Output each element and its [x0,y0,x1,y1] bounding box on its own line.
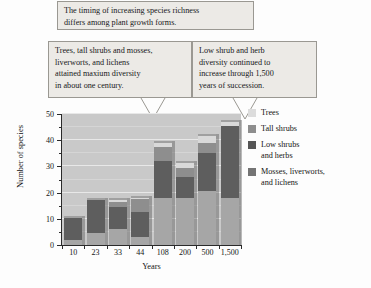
callout-right-line-3: increase through 1,500 [199,68,311,80]
bar-slot [62,114,84,245]
y-tick [57,219,61,220]
bar [154,143,172,245]
x-tick-label: 44 [129,248,151,257]
callout-top-line-2: differs among plant growth forms. [64,17,248,29]
bar-segment [176,168,194,177]
legend-swatch-icon [248,125,256,133]
legend-label-line: and herbs [261,151,299,162]
bar-chart: 01020304050 Number of species 1023334410… [0,104,371,288]
y-tick [57,140,61,141]
x-tick [219,245,220,249]
figure-root: The timing of increasing species richnes… [0,0,371,288]
y-axis-title: Number of species [16,109,25,205]
x-tick-label: 108 [152,248,174,257]
bar-segment [87,233,105,245]
x-tick [107,245,108,249]
bar [198,136,216,245]
bar-slot [84,114,106,245]
legend: TreesTall shrubsLow shrubsand herbsMosse… [248,108,368,194]
bar-slot [107,114,129,245]
legend-swatch-icon [248,168,256,176]
bar-segment [154,147,172,161]
y-tick-label: 20 [46,188,54,197]
legend-label: Mosses, liverworts,and lichens [261,167,325,188]
legend-label-line: Tall shrubs [261,124,297,135]
x-tick-label: 23 [84,248,106,257]
legend-label-line: Low shrubs [261,140,299,151]
legend-label-line: and lichens [261,178,325,189]
legend-item: Trees [248,108,368,119]
bar-segment [109,229,127,245]
callout-left-line-4: in about one century. [55,80,186,92]
callout-right-line-2: diversity continued to [199,57,311,69]
x-tick-label: 500 [196,248,218,257]
bar-slot [152,114,174,245]
y-tick-label: 30 [46,162,54,171]
x-tick [129,245,130,249]
y-tick-label: 50 [46,110,54,119]
callout-right-line-1: Low shrub and herb [199,45,311,57]
legend-label: Low shrubsand herbs [261,140,299,161]
bar [64,218,82,246]
bar [87,200,105,245]
y-tick [57,114,61,115]
legend-item: Tall shrubs [248,124,368,135]
y-tick-label: 0 [50,241,54,250]
x-tick-label: 33 [107,248,129,257]
bar-segment [64,218,82,240]
callout-left-line-1: Trees, tall shrubs and mosses, [55,45,186,57]
legend-label-line: Mosses, liverworts, [261,167,325,178]
legend-label-line: Trees [261,108,279,119]
y-axis-ticks: 01020304050 [0,104,61,256]
callout-right: Low shrub and herb diversity continued t… [192,41,317,98]
bar [109,200,127,245]
callout-top: The timing of increasing species richnes… [57,1,254,30]
bar-segment [198,143,216,153]
bar-segment [176,198,194,245]
bar-segment [198,191,216,245]
bar-group [62,114,241,245]
bar-segment [131,199,149,212]
callout-top-line-1: The timing of increasing species richnes… [64,5,248,17]
y-tick [59,206,62,207]
bar [221,122,239,245]
bar-segment [131,237,149,245]
bar-segment [109,207,127,229]
x-tick [62,245,63,249]
y-tick-label: 10 [46,214,54,223]
x-tick [84,245,85,249]
legend-item: Low shrubsand herbs [248,140,368,161]
x-tick-label: 200 [174,248,196,257]
callout-left-line-3: attained maxium diversity [55,68,186,80]
x-axis-labels: 102333441082005001,500 [62,248,241,257]
plot-area [62,114,241,245]
y-tick [57,245,61,246]
y-tick [57,193,61,194]
x-axis-title: Years [62,262,241,271]
bar-segment [87,200,105,233]
y-tick [59,153,62,154]
callout-left: Trees, tall shrubs and mosses, liverwort… [48,41,192,98]
legend-label: Trees [261,108,279,119]
bar-segment [221,198,239,245]
bar-slot [196,114,218,245]
x-tick-label: 1,500 [219,248,241,257]
callout-left-line-2: liverworts, and lichens [55,57,186,69]
y-axis-line [61,114,62,246]
bar-segment [131,212,149,237]
y-tick [57,166,61,167]
bar-slot [219,114,241,245]
bar-segment [154,161,172,198]
legend-swatch-icon [248,109,256,117]
x-tick [196,245,197,249]
x-tick [241,245,242,249]
bar-segment [176,177,194,198]
x-tick-label: 10 [62,248,84,257]
legend-swatch-icon [248,141,256,149]
x-tick [152,245,153,249]
bar-slot [174,114,196,245]
y-tick-label: 40 [46,136,54,145]
legend-item: Mosses, liverworts,and lichens [248,167,368,188]
bar-segment [154,198,172,245]
bar [176,163,194,246]
